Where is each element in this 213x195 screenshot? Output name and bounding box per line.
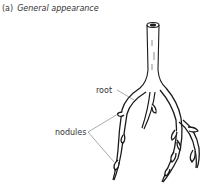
root-branch-middle <box>142 92 156 129</box>
nodules-leader-line-upper <box>88 114 118 132</box>
root-label: root <box>96 86 112 95</box>
root-stem <box>140 23 166 89</box>
root-diagram <box>0 0 213 195</box>
nodules-label: nodules <box>55 128 86 137</box>
label-leader-lines <box>88 90 134 162</box>
nodules-leader-line-lower <box>88 132 114 162</box>
root-branch-left <box>113 88 146 180</box>
root-branch-right <box>160 88 199 182</box>
